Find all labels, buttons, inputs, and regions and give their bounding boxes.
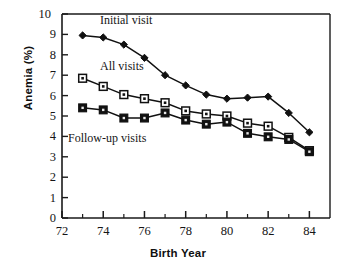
y-axis-tick-label: 3 (36, 151, 56, 164)
x-axis-tick-label: 84 (296, 225, 322, 238)
series-annotation-label: Follow-up visits (68, 132, 146, 144)
x-axis-tick-label: 78 (173, 225, 199, 238)
x-axis-tick-label: 82 (255, 225, 281, 238)
series-annotation-label: All visits (100, 60, 144, 72)
chart-figure: 012345678910 72747678808284 Initial visi… (0, 0, 356, 269)
x-axis-tick-label: 76 (131, 225, 157, 238)
y-axis-tick-label: 7 (36, 69, 56, 82)
y-axis-tick-label: 4 (36, 130, 56, 143)
y-axis-tick-label: 8 (36, 49, 56, 62)
x-axis-tick-label: 72 (49, 225, 75, 238)
y-axis-tick-label: 2 (36, 171, 56, 184)
y-axis-tick-label: 5 (36, 110, 56, 123)
y-axis-major-ticks (62, 14, 68, 218)
data-series-0 (79, 32, 313, 136)
y-axis-title: Anemia (%) (22, 0, 34, 158)
x-axis-tick-label: 74 (90, 225, 116, 238)
series-annotation-label: Initial visit (100, 14, 152, 26)
x-axis-tick-label: 80 (214, 225, 240, 238)
y-axis-tick-label: 1 (36, 192, 56, 205)
y-axis-tick-label: 9 (36, 28, 56, 41)
y-axis-tick-label: 10 (31, 8, 51, 21)
x-axis-major-ticks (62, 211, 309, 218)
x-axis-title: Birth Year (0, 247, 356, 259)
y-axis-tick-label: 0 (36, 212, 56, 225)
y-axis-tick-label: 6 (36, 90, 56, 103)
